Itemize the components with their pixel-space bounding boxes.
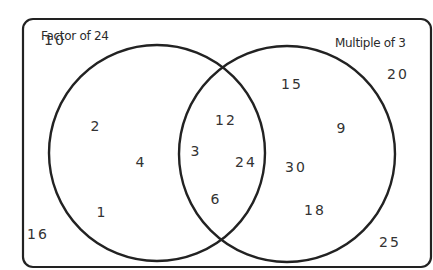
venn-number-6: 6 [211, 191, 222, 207]
venn-number-25: 25 [379, 234, 401, 250]
venn-number-18: 18 [304, 202, 326, 218]
venn-number-24: 24 [235, 154, 257, 170]
venn-number-20: 20 [387, 66, 409, 82]
venn-number-10: 10 [44, 32, 66, 48]
venn-number-30: 30 [285, 159, 307, 175]
universal-set-border [23, 19, 431, 267]
venn-number-3: 3 [191, 143, 202, 159]
venn-number-4: 4 [136, 154, 147, 170]
venn-number-12: 12 [215, 112, 237, 128]
venn-number-15: 15 [281, 76, 303, 92]
venn-number-9: 9 [337, 120, 348, 136]
set-label-multiple-of-3: Multiple of 3 [335, 36, 406, 50]
venn-number-1: 1 [97, 204, 108, 220]
set-circle-factor-of-24 [49, 45, 265, 261]
venn-number-2: 2 [91, 118, 102, 134]
venn-number-16: 16 [27, 226, 49, 242]
